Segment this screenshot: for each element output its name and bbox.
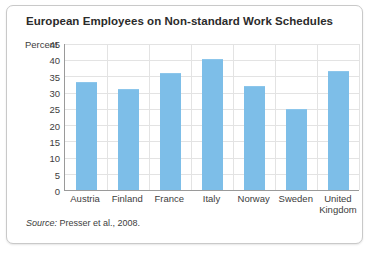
y-tick-label: 0 [55, 186, 60, 197]
x-tick-label: UnitedKingdom [317, 193, 359, 215]
x-tick-label-line: United [317, 193, 359, 204]
chart-title: European Employees on Non-standard Work … [26, 15, 333, 27]
plot-wrapper: 051015202530354045 [64, 44, 359, 191]
gridline-vertical [359, 44, 360, 190]
x-tick-label: Austria [64, 193, 106, 215]
bar-italy [202, 59, 223, 190]
bar-sweden [286, 109, 307, 190]
bar-slot [107, 44, 149, 190]
x-tick-label-line: Austria [64, 193, 106, 204]
bar-series [65, 44, 359, 190]
bar-slot [149, 44, 191, 190]
source-label: Source: [26, 218, 57, 228]
y-tick-label: 25 [49, 104, 60, 115]
x-tick-label-line: Sweden [275, 193, 317, 204]
bar-norway [244, 86, 265, 190]
plot-area [64, 44, 359, 191]
x-tick-label-line: Finland [106, 193, 148, 204]
x-tick-label: Finland [106, 193, 148, 215]
bar-slot [317, 44, 359, 190]
x-tick-label: France [148, 193, 190, 215]
y-tick-label: 15 [49, 137, 60, 148]
x-tick-label-line: France [148, 193, 190, 204]
x-tick-label-line: Italy [190, 193, 232, 204]
bar-finland [118, 89, 139, 190]
y-tick-label: 30 [49, 88, 60, 99]
source-citation: Presser et al., 2008. [57, 218, 140, 228]
figure-panel: European Employees on Non-standard Work … [6, 5, 363, 244]
x-tick-label: Sweden [275, 193, 317, 215]
y-tick-label: 35 [49, 71, 60, 82]
x-tick-label-line: Kingdom [317, 204, 359, 215]
bar-slot [233, 44, 275, 190]
bar-slot [275, 44, 317, 190]
y-tick-label: 5 [55, 169, 60, 180]
source-note: Source: Presser et al., 2008. [26, 218, 140, 228]
bar-france [160, 73, 181, 190]
x-axis-labels: AustriaFinlandFranceItalyNorwaySwedenUni… [64, 193, 359, 215]
bar-slot [191, 44, 233, 190]
x-tick-label: Italy [190, 193, 232, 215]
y-tick-label: 20 [49, 120, 60, 131]
x-tick-label: Norway [233, 193, 275, 215]
bar-united-kingdom [328, 71, 349, 190]
y-tick-label: 10 [49, 153, 60, 164]
bar-austria [76, 82, 97, 190]
y-tick-label: 40 [49, 55, 60, 66]
y-tick-label: 45 [49, 39, 60, 50]
x-tick-label-line: Norway [233, 193, 275, 204]
bar-slot [65, 44, 107, 190]
